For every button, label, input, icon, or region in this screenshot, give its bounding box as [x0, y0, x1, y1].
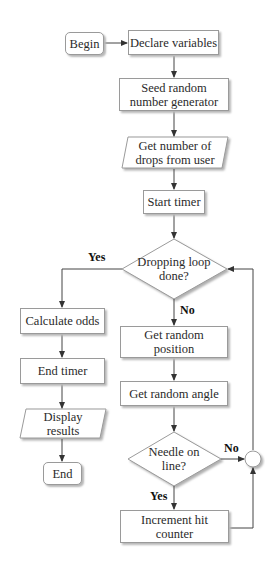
increment-label-1: Increment hit: [141, 513, 208, 527]
end-label: End: [52, 467, 72, 481]
random-angle-label: Get random angle: [129, 387, 219, 401]
needle-yes-label: Yes: [150, 489, 167, 504]
random-angle-node: Get random angle: [120, 381, 228, 406]
end-timer-label: End timer: [38, 364, 88, 378]
seed-rng-node: Seed random number generator: [119, 78, 229, 111]
get-drops-label-2: drops from user: [135, 153, 214, 167]
loop-done-node: Dropping loop done?: [130, 254, 218, 284]
calculate-odds-node: Calculate odds: [20, 308, 105, 334]
needle-label-2: line?: [162, 459, 186, 473]
needle-on-line-node: Needle on line?: [138, 444, 210, 474]
display-results-label-1: Display: [44, 410, 83, 424]
calculate-odds-label: Calculate odds: [26, 314, 100, 328]
loop-yes-label: Yes: [88, 250, 105, 265]
needle-label-1: Needle on: [148, 445, 199, 459]
get-drops-node: Get number of drops from user: [122, 137, 228, 168]
start-timer-node: Start timer: [143, 190, 205, 214]
end-timer-node: End timer: [20, 358, 105, 384]
loop-no-label: No: [180, 303, 195, 318]
seed-rng-label-2: number generator: [130, 95, 219, 109]
random-position-label-2: position: [154, 342, 194, 356]
needle-no-label: No: [224, 441, 239, 456]
increment-label-2: counter: [156, 527, 193, 541]
start-timer-label: Start timer: [147, 195, 200, 209]
begin-node: Begin: [65, 32, 104, 55]
display-results-label-2: results: [47, 424, 80, 438]
end-node: End: [43, 462, 82, 485]
get-drops-label-1: Get number of: [139, 139, 212, 153]
random-position-node: Get random position: [120, 326, 228, 358]
random-position-label-1: Get random: [144, 328, 203, 342]
declare-variables-node: Declare variables: [128, 30, 219, 55]
loop-done-label-1: Dropping loop: [137, 255, 210, 269]
loop-done-label-2: done?: [159, 269, 189, 283]
declare-variables-label: Declare variables: [130, 36, 217, 50]
seed-rng-label-1: Seed random: [141, 81, 207, 95]
increment-hit-counter-node: Increment hit counter: [120, 510, 229, 543]
display-results-node: Display results: [20, 409, 106, 438]
begin-label: Begin: [70, 37, 100, 51]
junction-circle: [245, 451, 261, 467]
